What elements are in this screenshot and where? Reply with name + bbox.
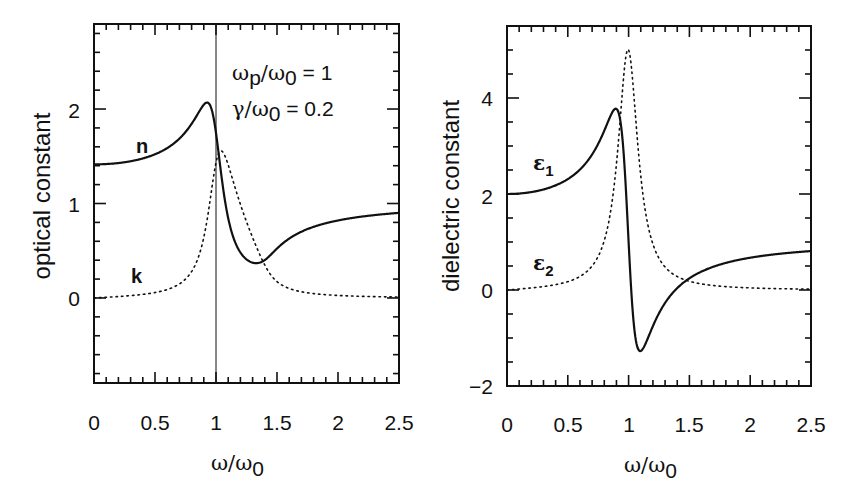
epsilon1-label: ε1 — [533, 151, 554, 179]
left-x-axis-title: ω/ω0 — [211, 451, 264, 480]
figure: 0 0.5 1 1.5 2 2.5 0 1 2 optical constant… — [0, 0, 864, 484]
epsilon2-label: ε2 — [533, 251, 554, 279]
right-y-tick-label: −2 — [469, 375, 493, 398]
parameter-annotation-damping: γ/ω0 = 0.2 — [232, 97, 334, 125]
left-y-tick-label: 0 — [68, 287, 80, 310]
right-panel: 0 0.5 1 1.5 2 2.5 −2 0 2 4 dielectric co… — [437, 26, 826, 482]
left-x-tick-label: 0.5 — [140, 411, 169, 434]
right-x-tick-label: 1.5 — [674, 413, 703, 436]
right-y-tick-label: 0 — [481, 279, 493, 302]
right-x-tick-label: 1 — [623, 413, 635, 436]
right-plot-frame — [507, 26, 811, 386]
right-y-tick-label: 4 — [481, 87, 493, 110]
left-x-tick-label: 2.5 — [384, 411, 413, 434]
right-y-axis-title: dielectric constant — [437, 100, 464, 292]
right-y-tick-label: 2 — [481, 185, 493, 208]
left-panel: 0 0.5 1 1.5 2 2.5 0 1 2 optical constant… — [28, 24, 414, 480]
left-y-axis-title: optical constant — [28, 112, 55, 279]
parameter-annotation-plasma: ωp/ω0 = 1 — [232, 61, 332, 89]
right-axis-ticks — [507, 26, 811, 386]
epsilon1-curve — [507, 109, 811, 351]
left-y-tick-label: 1 — [68, 193, 80, 216]
n-label: n — [136, 135, 148, 157]
right-x-tick-label: 2.5 — [796, 413, 825, 436]
left-y-tick-label: 2 — [68, 99, 80, 122]
left-x-tick-label: 1 — [210, 411, 222, 434]
n-curve — [94, 103, 399, 264]
right-x-axis-title: ω/ω0 — [624, 453, 677, 482]
right-x-tick-label: 2 — [744, 413, 756, 436]
k-label: k — [131, 265, 143, 287]
left-x-tick-label: 2 — [332, 411, 344, 434]
left-x-tick-label: 1.5 — [262, 411, 291, 434]
right-x-tick-label: 0.5 — [553, 413, 582, 436]
left-x-tick-label: 0 — [88, 411, 100, 434]
right-x-tick-label: 0 — [501, 413, 513, 436]
